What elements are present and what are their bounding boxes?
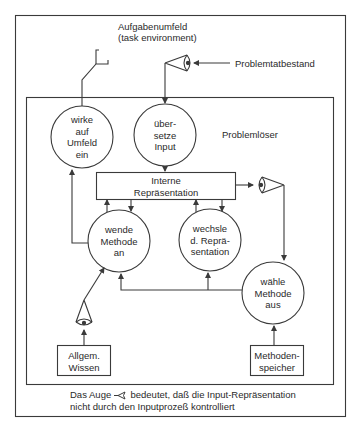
arrow-select-to-apply: [121, 274, 242, 290]
caption-line2: nicht durch den Inputprozeß kontrolliert: [70, 401, 296, 413]
node-change-rep-line: sentation: [190, 246, 230, 258]
node-select-method-label: wähle Methode aus: [255, 276, 292, 311]
node-act-line: Umfeld: [67, 137, 97, 149]
arrow-apply-to-act: [72, 170, 88, 243]
node-act-label: wirke auf Umfeld ein: [67, 114, 97, 160]
node-translate-label: über- setze Input: [154, 118, 177, 153]
caption-text-after: bedeutet, daß die Input-Repräsentation: [130, 389, 295, 400]
arrow-knowledge-to-apply: [84, 268, 104, 300]
node-translate-line: setze: [154, 129, 177, 141]
eye-icon-input: [165, 55, 190, 71]
node-translate-line: über-: [154, 118, 177, 130]
eye-icon-knowledge: [76, 300, 92, 325]
node-internal-rep-line: Interne: [134, 175, 198, 187]
node-act-line: auf: [67, 126, 97, 138]
node-act-line: wirke: [67, 114, 97, 126]
node-apply-method-label: wende Methode an: [101, 224, 138, 259]
node-internal-rep-line: Repräsentation: [134, 186, 198, 198]
node-apply-method-line: wende: [101, 224, 138, 236]
problem-solver-label: Problemlöser: [222, 129, 278, 140]
caption-text-before: Das Auge: [70, 389, 111, 400]
eye-symbol-icon: [114, 391, 128, 400]
environment-title-line1: Aufgabenumfeld: [118, 21, 197, 32]
environment-title-line2: (task environment): [118, 32, 197, 43]
node-method-store-line: speicher: [254, 361, 299, 373]
node-select-method-line: aus: [255, 299, 292, 311]
node-change-rep-line: wechsle: [190, 223, 230, 235]
node-apply-method-line: an: [101, 247, 138, 259]
environment-title: Aufgabenumfeld (task environment): [118, 21, 197, 43]
node-select-method-line: Methode: [255, 287, 292, 299]
node-internal-rep-label: Interne Repräsentation: [134, 175, 198, 198]
caption: Das Auge bedeutet, daß die Input-Repräse…: [70, 389, 296, 413]
node-general-knowledge-line: Wissen: [68, 361, 100, 373]
node-select-method-line: wähle: [255, 276, 292, 288]
node-change-rep-label: wechsle d. Reprä- sentation: [190, 223, 230, 258]
node-method-store-label: Methoden- speicher: [254, 350, 299, 373]
node-general-knowledge-line: Allgem.: [68, 350, 100, 362]
node-act-line: ein: [67, 149, 97, 161]
node-translate-line: Input: [154, 141, 177, 153]
caption-line1: Das Auge bedeutet, daß die Input-Repräse…: [70, 389, 296, 401]
problem-input-label: Problemtatbestand: [235, 58, 315, 69]
node-apply-method-line: Methode: [101, 235, 138, 247]
node-method-store-line: Methoden-: [254, 350, 299, 362]
node-change-rep-line: d. Reprä-: [190, 234, 230, 246]
node-general-knowledge-label: Allgem. Wissen: [68, 350, 100, 373]
eye-icon-monitor: [259, 177, 284, 193]
